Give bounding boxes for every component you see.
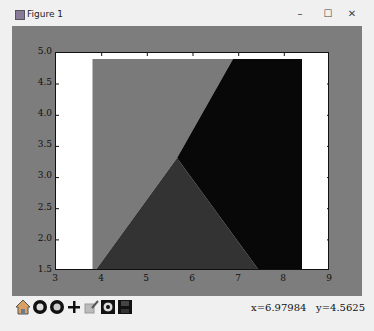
pan-cross-icon <box>66 299 82 315</box>
maximize-button[interactable]: ☐ <box>318 6 338 22</box>
save-floppy-icon <box>117 299 133 315</box>
minimize-button[interactable]: – <box>290 6 310 22</box>
configure-subplots-button[interactable] <box>100 299 116 315</box>
y-tick-label: 2.5 <box>22 202 52 212</box>
navigation-toolbar <box>12 297 362 317</box>
cursor-x-coordinate: x=6.97984 <box>251 302 306 313</box>
back-button[interactable] <box>32 299 48 315</box>
configure-subplots-icon <box>100 299 116 315</box>
x-tick-label: 7 <box>228 273 248 283</box>
plot-regions <box>56 53 329 270</box>
app-icon <box>15 10 25 20</box>
y-tick-label: 5.0 <box>22 46 52 56</box>
home-button[interactable] <box>15 299 31 315</box>
x-tick-label: 8 <box>273 273 293 283</box>
y-tick-label: 2.0 <box>22 233 52 243</box>
y-tick-label: 4.5 <box>22 77 52 87</box>
pan-button[interactable] <box>66 299 82 315</box>
back-arrow-icon <box>32 299 48 315</box>
forward-button[interactable] <box>49 299 65 315</box>
close-button[interactable]: ✕ <box>342 6 362 22</box>
y-tick-label: 3.0 <box>22 170 52 180</box>
zoom-rect-icon <box>83 299 99 315</box>
x-tick-label: 6 <box>182 273 202 283</box>
x-tick-label: 5 <box>136 273 156 283</box>
x-tick-label: 9 <box>319 273 339 283</box>
cursor-y-coordinate: y=4.5625 <box>316 302 365 313</box>
forward-arrow-icon <box>49 299 65 315</box>
x-tick-label: 4 <box>91 273 111 283</box>
title-bar: Figure 1 – ☐ ✕ <box>0 0 374 26</box>
y-tick-label: 3.5 <box>22 139 52 149</box>
plot-axes[interactable] <box>55 52 329 270</box>
x-tick-label: 3 <box>45 273 65 283</box>
y-tick-label: 4.0 <box>22 108 52 118</box>
figure-canvas[interactable]: 5.0 4.5 4.0 3.5 3.0 2.5 2.0 1.5 3 4 5 6 … <box>12 26 362 296</box>
window-title: Figure 1 <box>27 9 63 19</box>
zoom-button[interactable] <box>83 299 99 315</box>
save-button[interactable] <box>117 299 133 315</box>
home-icon <box>15 299 31 315</box>
